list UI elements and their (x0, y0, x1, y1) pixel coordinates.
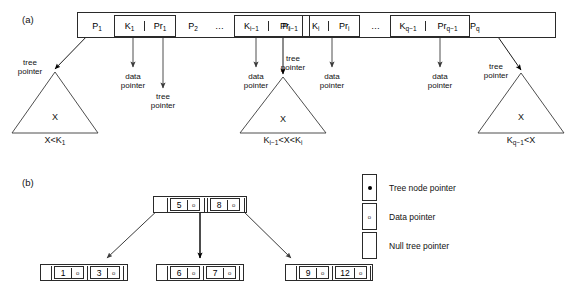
label-p1: P1 (92, 21, 102, 31)
root-key-1: 5 (171, 200, 188, 210)
slot-tree-pointer-pq[interactable]: Pq (470, 15, 494, 37)
slot-key-pair-q-minus-1[interactable]: Kq−1 Prq−1 (390, 15, 470, 37)
legend-label-null-tree-pointer: Null tree pointer (389, 241, 449, 251)
legend-swatch-tree-node-pointer (362, 174, 377, 201)
panel-b-leaf-left[interactable]: 1 o 3 o (40, 264, 128, 281)
annotation-tree-pointer-4: tree pointer (484, 62, 508, 80)
subtree-middle-caption: Ki−1<X<Ki (264, 136, 303, 145)
cell-key-1: K1 (115, 21, 145, 31)
legend-label-tree-node-pointer: Tree node pointer (389, 183, 456, 193)
leaf-left-data-pointer-1: o (72, 270, 83, 276)
cell-data-pointer-i: Pri (329, 21, 359, 31)
cell-data-pointer-1: Pr1 (145, 21, 175, 31)
leaf-middle-data-pointer-1: o (188, 270, 199, 276)
annotation-data-pointer-1: data pointer (121, 72, 145, 90)
root-data-pointer-1: o (188, 202, 199, 208)
leaf-middle-key-1: 6 (171, 268, 188, 278)
leaf-right-data-pointer-1: o (317, 270, 328, 276)
panel-b-leaf-middle[interactable]: 6 o 7 o (156, 264, 244, 281)
leaf-middle-key-2: 7 (207, 268, 224, 278)
leaf-middle-key-box-1: 6 o (170, 266, 200, 279)
leaf-right-key-box-1: 9 o (299, 266, 329, 279)
panel-a-tag: (a) (22, 14, 34, 25)
root-key-box-1: 5 o (170, 198, 200, 211)
leaf-left-key-1: 1 (55, 268, 72, 278)
slot-tree-pointer-pi[interactable]: Pi (274, 15, 298, 37)
label-p2: P2 (188, 21, 198, 31)
annotation-tree-pointer-2: tree pointer (151, 92, 175, 110)
slot-ellipsis-1: … (208, 15, 232, 37)
subtree-triangle-left (12, 72, 98, 133)
subtree-right-caption: Kq−1<X (507, 136, 535, 145)
leaf-right-key-box-2: 12 o (335, 266, 367, 279)
annotation-tree-pointer-3: tree pointer (281, 54, 305, 72)
slot-key-pair-1[interactable]: K1 Pr1 (114, 15, 176, 37)
leaf-right-data-pointer-2: o (355, 270, 366, 276)
data-pointer-icon: o (368, 214, 371, 220)
cell-key-i-minus-1: Ki−1 (235, 21, 269, 31)
cell-key-i: Ki (303, 21, 329, 31)
leaf-middle-data-pointer-2: o (224, 270, 235, 276)
leaf-left-key-box-2: 3 o (90, 266, 120, 279)
slot-tree-pointer-p2[interactable]: P2 (180, 15, 206, 37)
cell-data-pointer-q-minus-1: Prq−1 (426, 21, 469, 31)
legend-swatch-data-pointer: o (362, 203, 377, 230)
root-key-box-2: 8 o (210, 198, 240, 211)
legend-swatch-null-tree-pointer (362, 232, 377, 259)
panel-a-subtree-triangles (12, 72, 564, 133)
subtree-triangle-right (478, 73, 564, 133)
leaf-right-key-2: 12 (336, 268, 355, 278)
subtree-left-inner-label: X (52, 113, 58, 122)
subtree-right-inner-label: X (518, 113, 524, 122)
slot-key-pair-i-minus-1[interactable]: Ki−1 Pri−1 (234, 15, 310, 37)
leaf-left-key-2: 3 (91, 268, 108, 278)
leaf-left-data-pointer-2: o (108, 270, 119, 276)
arrow-root-to-leaf-left (107, 208, 160, 258)
slot-tree-pointer-p1[interactable]: P1 (84, 15, 110, 37)
subtree-middle-inner-label: X (280, 115, 286, 124)
cell-key-q-minus-1: Kq−1 (391, 21, 426, 31)
leaf-right-key-1: 9 (300, 268, 317, 278)
label-pq: Pq (470, 21, 480, 31)
arrow-root-to-leaf-right (240, 208, 291, 258)
panel-b-tag: (b) (22, 177, 34, 188)
legend-label-data-pointer: Data pointer (389, 212, 435, 222)
root-data-pointer-2: o (228, 202, 239, 208)
tree-node-pointer-icon (368, 186, 372, 190)
slot-key-pair-i[interactable]: Ki Pri (302, 15, 360, 37)
panel-b-leaf-right[interactable]: 9 o 12 o (285, 264, 373, 281)
leaf-middle-key-box-2: 7 o (206, 266, 236, 279)
subtree-left-caption: X<K1 (45, 136, 66, 145)
slot-ellipsis-2: … (364, 15, 388, 37)
annotation-data-pointer-2: data pointer (244, 72, 268, 90)
label-pi: Pi (282, 21, 289, 31)
panel-b-root-node[interactable]: 5 o 8 o (153, 196, 247, 213)
root-key-2: 8 (211, 200, 228, 210)
annotation-tree-pointer-1: tree pointer (18, 58, 42, 76)
diagram-canvas (0, 0, 566, 299)
panel-a-node: P1 K1 Pr1 P2 … Ki−1 Pri−1 Pi Ki Pri … (77, 12, 556, 38)
leaf-left-key-box-1: 1 o (54, 266, 84, 279)
panel-b-connectors (107, 208, 291, 258)
annotation-data-pointer-4: data pointer (428, 72, 452, 90)
annotation-data-pointer-3: data pointer (320, 72, 344, 90)
